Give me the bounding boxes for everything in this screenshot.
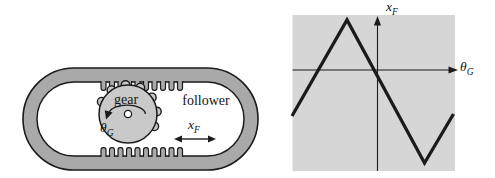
y-axis-subscript: F (391, 7, 398, 17)
y-axis-symbol: x (385, 0, 392, 14)
figure-canvas: gear follower θG xF xF θG (0, 0, 495, 178)
figure: gear follower θG xF xF θG (0, 0, 495, 178)
rack-tooth (101, 148, 106, 157)
follower-label: follower (182, 93, 230, 108)
mechanism-diagram: gear follower θG xF (23, 68, 258, 170)
x-axis-label: θG (460, 59, 474, 77)
graph: xF θG (292, 0, 474, 171)
rack-tooth (169, 148, 174, 157)
rack-tooth (110, 148, 115, 157)
x-symbol: x (187, 117, 194, 132)
rack-tooth (161, 148, 166, 157)
rack-tooth (178, 148, 183, 157)
x-subscript: F (193, 125, 200, 135)
y-axis-label: xF (385, 0, 398, 17)
rack-tooth (169, 81, 174, 90)
rack-tooth (161, 81, 166, 90)
x-axis-subscript: G (467, 67, 474, 77)
gear-pivot (124, 110, 131, 117)
theta-subscript: G (107, 128, 114, 138)
rack-tooth (178, 81, 183, 90)
rack-tooth (127, 148, 132, 157)
rack-tooth (152, 81, 157, 90)
rack-tooth (101, 81, 106, 90)
plot-area (293, 15, 456, 171)
rack-tooth (135, 148, 140, 157)
rack-tooth (152, 148, 157, 157)
gear-label: gear (114, 92, 138, 107)
rack-tooth (118, 148, 123, 157)
rack-tooth (144, 148, 149, 157)
